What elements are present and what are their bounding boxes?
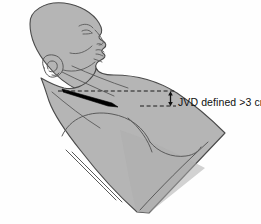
anatomy-illustration [0, 0, 261, 224]
jvd-definition-label: JVD defined >3 cm [178, 97, 261, 108]
jvd-figure: JVD defined >3 cm [0, 0, 261, 224]
